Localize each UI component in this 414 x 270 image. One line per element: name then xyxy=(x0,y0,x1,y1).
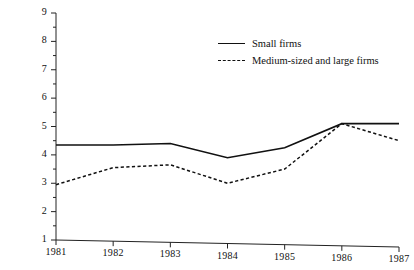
x-axis-tick-label: 1983 xyxy=(148,248,192,259)
legend-label-small-firms: Small firms xyxy=(252,38,301,49)
y-axis-tick-label: 8 xyxy=(25,34,47,45)
legend-line-sample-solid-icon xyxy=(218,39,245,49)
chart-series-layer xyxy=(56,124,399,185)
y-axis-tick-label: 9 xyxy=(25,6,47,17)
x-axis-tick-label: 1984 xyxy=(206,250,250,261)
legend-line-sample-dashed-icon xyxy=(218,56,245,66)
series-line-medium-large-firms xyxy=(56,124,399,185)
y-axis-tick-label: 5 xyxy=(25,120,47,131)
y-axis-tick-label: 3 xyxy=(25,176,47,187)
y-axis-tick-label: 4 xyxy=(25,148,47,159)
chart-legend: Small firms Medium-sized and large firms xyxy=(218,36,403,70)
x-axis-tick-label: 1981 xyxy=(34,246,78,257)
legend-item-medium-large-firms: Medium-sized and large firms xyxy=(218,53,403,68)
legend-item-small-firms: Small firms xyxy=(218,36,403,51)
x-axis-tick-label: 1987 xyxy=(377,253,414,264)
legend-label-medium-large-firms: Medium-sized and large firms xyxy=(252,55,379,66)
x-axis-tick-label: 1982 xyxy=(91,247,135,258)
x-axis-tick-label: 1986 xyxy=(320,252,364,263)
y-axis-tick-label: 6 xyxy=(25,91,47,102)
y-axis-tick-label: 7 xyxy=(25,63,47,74)
series-line-small-firms xyxy=(56,124,399,158)
y-axis-tick-label: 2 xyxy=(25,205,47,216)
x-axis-tick-label: 1985 xyxy=(263,251,307,262)
y-axis-tick-label: 1 xyxy=(25,233,47,244)
